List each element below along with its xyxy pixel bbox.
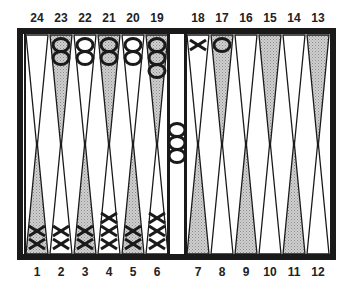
point-7[interactable] [187,140,209,254]
backgammon-board [0,0,353,292]
point-13[interactable] [307,35,329,149]
point-1[interactable] [26,140,48,254]
point-2[interactable] [50,140,72,254]
point-9[interactable] [235,140,257,254]
point-3[interactable] [74,140,96,254]
point-6[interactable] [146,140,168,254]
point-15[interactable] [259,35,281,149]
o-checker[interactable] [169,124,185,137]
point-18[interactable] [187,35,209,149]
o-checker[interactable] [169,150,185,163]
point-5[interactable] [122,140,144,254]
o-checker[interactable] [169,137,185,150]
points-layer [26,35,329,254]
point-10[interactable] [259,140,281,254]
point-8[interactable] [211,140,233,254]
point-16[interactable] [235,35,257,149]
point-11[interactable] [283,140,305,254]
point-4[interactable] [98,140,120,254]
point-12[interactable] [307,140,329,254]
point-24[interactable] [26,35,48,149]
point-14[interactable] [283,35,305,149]
